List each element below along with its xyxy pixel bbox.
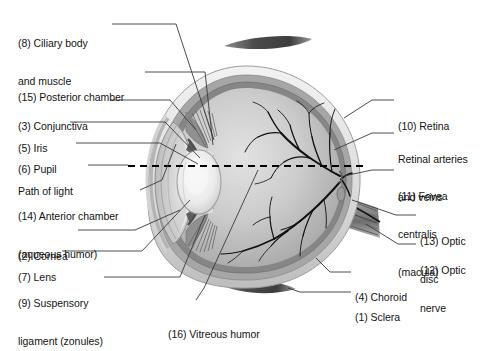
label-line: (8) Ciliary body [18, 37, 88, 50]
label-suspensory-ligament: (9) Suspensory ligament (zonules) [18, 272, 103, 351]
label-line: Retinal arteries [398, 153, 468, 166]
label-line: (12) Optic [420, 264, 466, 277]
label-line: (1) Sclera [355, 311, 400, 324]
lens-structure [177, 150, 221, 214]
label-line: nerve [420, 302, 466, 315]
label-line: (16) Vitreous humor [168, 328, 260, 341]
label-line: ligament (zonules) [18, 335, 103, 348]
optic-disc-marker [337, 187, 345, 201]
label-line: (11) Fovea [398, 190, 448, 203]
label-optic-nerve: (12) Optic nerve [420, 239, 466, 340]
label-line: (14) Anterior chamber [18, 210, 119, 223]
label-sclera: (1) Sclera [355, 286, 400, 349]
superior-rectus-muscle [224, 36, 312, 49]
label-line: (9) Suspensory [18, 297, 103, 310]
label-vitreous-humor: (16) Vitreous humor [168, 303, 260, 351]
